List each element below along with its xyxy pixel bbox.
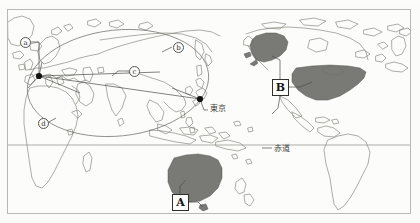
box-label-b[interactable]: B <box>272 79 289 96</box>
route-lines <box>28 62 200 99</box>
circle-label-b[interactable]: b <box>173 42 184 53</box>
circle-label-c[interactable]: c <box>129 66 140 77</box>
shaded-regions <box>168 33 366 211</box>
ellipse-overlay <box>22 21 214 145</box>
new-zealand-outline <box>235 178 254 206</box>
circle-label-a[interactable]: a <box>20 37 31 48</box>
node-europe-hub[interactable] <box>36 73 42 79</box>
equator-label: 赤道 <box>274 145 291 153</box>
box-label-a[interactable]: A <box>172 194 189 211</box>
node-tokyo[interactable] <box>197 96 203 102</box>
region-tasmania <box>199 204 208 211</box>
circle-label-d[interactable]: d <box>38 118 49 129</box>
figure-root: a b c d A B 東京 赤道 <box>0 0 420 223</box>
tokyo-label: 東京 <box>210 105 227 113</box>
region-usa <box>292 65 366 100</box>
